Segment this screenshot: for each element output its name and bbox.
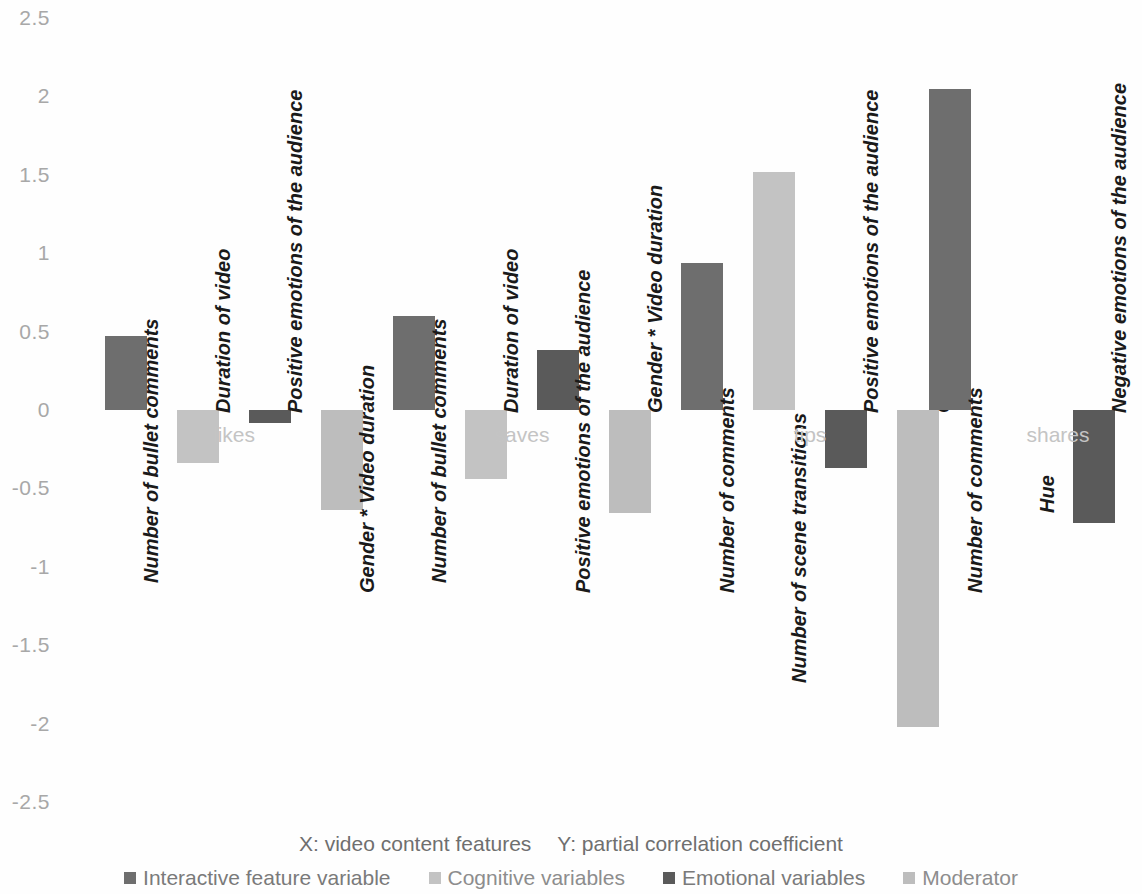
bar[interactable] <box>753 172 795 410</box>
group-label: tips <box>794 423 827 447</box>
bar-label: Hue <box>1036 475 1059 513</box>
legend-label: Cognitive variables <box>448 866 625 890</box>
bar-label: Gender * Video duration <box>356 365 379 593</box>
legend-label: Moderator <box>922 866 1018 890</box>
bar[interactable] <box>609 410 651 513</box>
legend-swatch-icon <box>663 872 675 884</box>
bar-label: Number of comments <box>964 387 987 593</box>
chart-figure: Number of bullet commentsDuration of vid… <box>0 0 1142 894</box>
legend-item[interactable]: Interactive feature variable <box>124 866 390 890</box>
bar-label: Positive emotions of the audience <box>572 270 595 593</box>
legend-swatch-icon <box>429 872 441 884</box>
y-axis-tick-label: -1 <box>2 555 50 579</box>
y-axis-tick-label: -2 <box>2 712 50 736</box>
x-axis-caption: X: video content features <box>299 832 531 855</box>
y-axis-caption: Y: partial correlation coefficient <box>557 832 843 855</box>
y-axis-tick-label: 0.5 <box>2 320 50 344</box>
plot-area: Number of bullet commentsDuration of vid… <box>60 0 1142 894</box>
bar-label: Number of bullet comments <box>140 319 163 583</box>
bar[interactable] <box>825 410 867 468</box>
y-axis-tick-label: -0.5 <box>2 476 50 500</box>
group-label: saves <box>495 423 550 447</box>
y-axis-tick-label: 2.5 <box>2 6 50 30</box>
group-label: shares <box>1026 423 1089 447</box>
bar-label: Number of comments <box>716 387 739 593</box>
bar-label: Number of scene transitions <box>788 413 811 683</box>
bar-label: Duration of video <box>500 249 523 413</box>
legend-item[interactable]: Emotional variables <box>663 866 865 890</box>
bar-label: Gender * Video duration <box>644 185 667 413</box>
bar-label: Positive emotions of the audience <box>860 90 883 413</box>
y-axis-tick-label: 1 <box>2 241 50 265</box>
y-axis-tick-label: 2 <box>2 84 50 108</box>
y-axis-tick-label: -2.5 <box>2 790 50 814</box>
y-axis-tick-label: -1.5 <box>2 633 50 657</box>
legend-swatch-icon <box>903 872 915 884</box>
y-axis-tick-label: 0 <box>2 398 50 422</box>
legend-item[interactable]: Cognitive variables <box>429 866 625 890</box>
bar[interactable] <box>929 89 971 410</box>
bar[interactable] <box>897 410 939 727</box>
bar-label: Negative emotions of the audience <box>1108 83 1131 413</box>
axis-caption: X: video content featuresY: partial corr… <box>0 832 1142 856</box>
chart-legend: Interactive feature variableCognitive va… <box>0 866 1142 890</box>
legend-label: Emotional variables <box>682 866 865 890</box>
bar-label: Number of bullet comments <box>428 319 451 583</box>
group-label: likes <box>213 423 255 447</box>
bar-label: Positive emotions of the audience <box>284 90 307 413</box>
legend-item[interactable]: Moderator <box>903 866 1018 890</box>
legend-label: Interactive feature variable <box>143 866 390 890</box>
legend-swatch-icon <box>124 872 136 884</box>
bar-label: Duration of video <box>212 249 235 413</box>
y-axis-tick-label: 1.5 <box>2 163 50 187</box>
